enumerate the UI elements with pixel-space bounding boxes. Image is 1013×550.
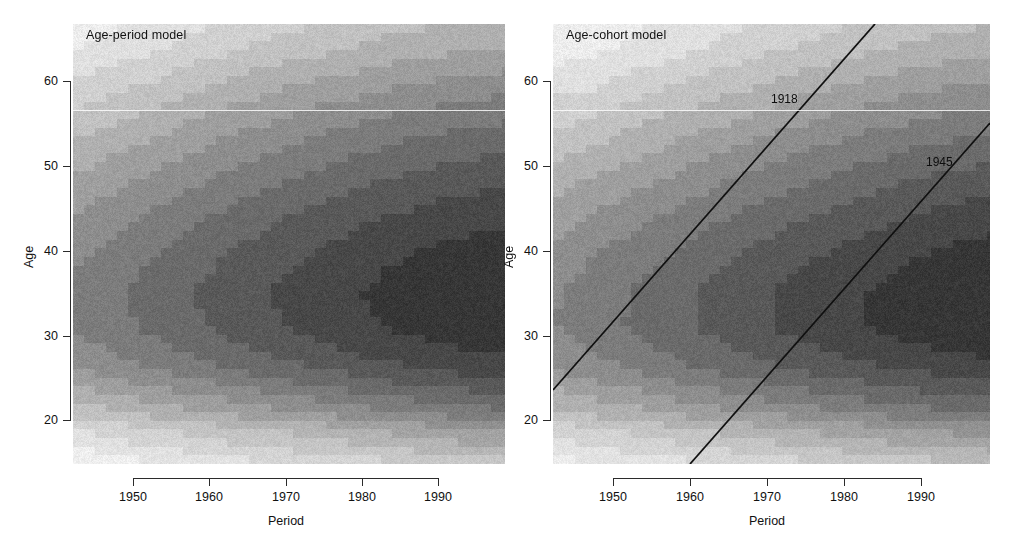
x-tick-1970-right bbox=[767, 478, 768, 486]
y-tick-label-50-right: 50 bbox=[508, 159, 538, 173]
cohort-line-1945 bbox=[690, 123, 990, 464]
y-tick-20-left bbox=[63, 420, 71, 421]
x-tick-label-1960-right: 1960 bbox=[667, 490, 713, 504]
y-tick-60-left bbox=[63, 81, 71, 82]
x-tick-1970-left bbox=[286, 478, 287, 486]
heatmap-canvas-age-period bbox=[73, 24, 505, 464]
y-tick-50-right bbox=[543, 166, 551, 167]
figure-canvas: Age-period model 60 50 40 30 20 Age 1950… bbox=[0, 0, 1013, 550]
x-tick-label-1980-left: 1980 bbox=[339, 490, 385, 504]
x-tick-1950-right bbox=[613, 478, 614, 486]
panel-title-age-period: Age-period model bbox=[86, 28, 186, 42]
x-tick-1950-left bbox=[133, 478, 134, 486]
x-tick-label-1970-right: 1970 bbox=[744, 490, 790, 504]
y-tick-label-20-right: 20 bbox=[508, 413, 538, 427]
x-tick-1990-right bbox=[921, 478, 922, 486]
x-tick-label-1950-right: 1950 bbox=[590, 490, 636, 504]
cohort-label-1918: 1918 bbox=[771, 92, 798, 106]
x-tick-1960-right bbox=[690, 478, 691, 486]
y-tick-label-20-left: 20 bbox=[28, 413, 58, 427]
y-tick-label-60-right: 60 bbox=[508, 74, 538, 88]
x-tick-label-1960-left: 1960 bbox=[186, 490, 232, 504]
x-tick-label-1950-left: 1950 bbox=[110, 490, 156, 504]
y-tick-30-right bbox=[543, 336, 551, 337]
plot-area-age-period[interactable] bbox=[73, 24, 505, 464]
cohort-reference-lines bbox=[553, 24, 990, 464]
cohort-line-1918 bbox=[553, 24, 875, 390]
x-tick-label-1990-right: 1990 bbox=[898, 490, 944, 504]
plot-area-age-cohort[interactable] bbox=[553, 24, 990, 464]
y-tick-30-left bbox=[63, 336, 71, 337]
y-axis-title-right: Age bbox=[502, 246, 516, 268]
x-tick-label-1980-right: 1980 bbox=[821, 490, 867, 504]
cohort-label-1945: 1945 bbox=[926, 155, 953, 169]
y-tick-50-left bbox=[63, 166, 71, 167]
x-tick-label-1970-left: 1970 bbox=[263, 490, 309, 504]
y-tick-label-30-right: 30 bbox=[508, 329, 538, 343]
panel-age-cohort: Age-cohort model 1918 1945 60 50 40 30 2… bbox=[506, 0, 1013, 550]
y-tick-label-60-left: 60 bbox=[28, 74, 58, 88]
x-tick-1980-left bbox=[362, 478, 363, 486]
panel-title-age-cohort: Age-cohort model bbox=[566, 28, 666, 42]
y-tick-label-30-left: 30 bbox=[28, 329, 58, 343]
x-tick-label-1990-left: 1990 bbox=[415, 490, 461, 504]
y-axis-title-left: Age bbox=[22, 246, 36, 268]
x-axis-title-left: Period bbox=[263, 514, 309, 528]
y-tick-60-right bbox=[543, 81, 551, 82]
x-tick-1960-left bbox=[209, 478, 210, 486]
y-tick-40-right bbox=[543, 251, 551, 252]
panel-age-period: Age-period model 60 50 40 30 20 Age 1950… bbox=[0, 0, 506, 550]
x-axis-title-right: Period bbox=[744, 514, 790, 528]
y-tick-20-right bbox=[543, 420, 551, 421]
y-tick-40-left bbox=[63, 251, 71, 252]
x-tick-1990-left bbox=[438, 478, 439, 486]
y-tick-label-50-left: 50 bbox=[28, 159, 58, 173]
x-tick-1980-right bbox=[844, 478, 845, 486]
